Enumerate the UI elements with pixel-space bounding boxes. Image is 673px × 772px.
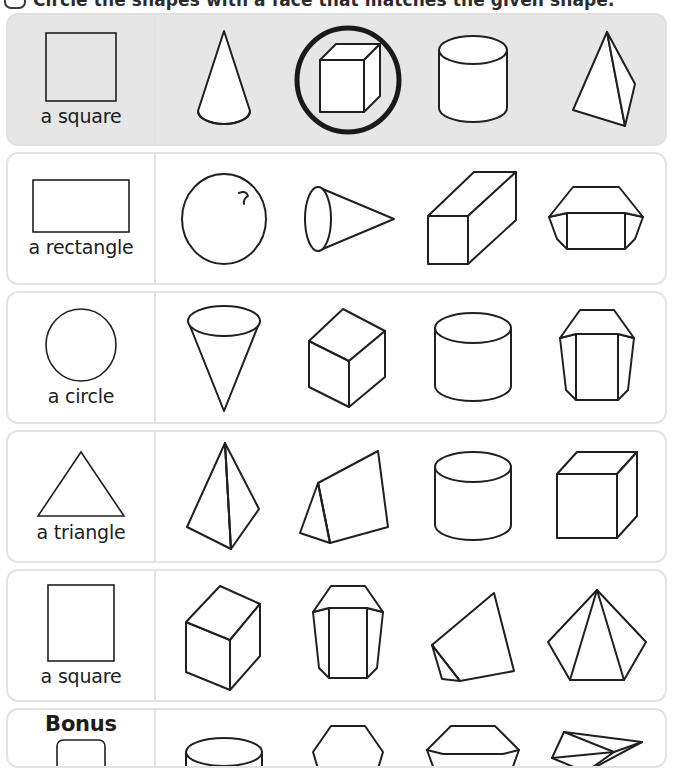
row-shapes (156, 571, 665, 700)
triangle-icon (35, 449, 127, 519)
circle-icon (43, 307, 119, 383)
table-row: a rectangle (6, 152, 667, 285)
shape-option[interactable] (418, 577, 528, 695)
shape-option[interactable] (169, 160, 279, 278)
shape-option[interactable] (293, 577, 403, 695)
shape-option[interactable] (293, 160, 403, 278)
shape-option[interactable] (418, 160, 528, 278)
bonus-label: Bonus (45, 714, 117, 735)
table-row: a triangle (6, 430, 667, 563)
row-shapes (156, 154, 665, 283)
square-icon (46, 583, 116, 663)
shape-option[interactable] (293, 299, 403, 417)
shape-option[interactable] (542, 438, 652, 556)
row-label: a triangle (37, 523, 126, 542)
shape-option[interactable] (542, 299, 652, 417)
shape-option[interactable] (542, 21, 652, 139)
table-row: a circle (6, 291, 667, 424)
square-icon (44, 31, 118, 103)
shape-option[interactable] (418, 718, 528, 768)
row-label-cell: a square (8, 15, 156, 144)
row-label: a rectangle (28, 238, 133, 257)
table-row-bonus: Bonus (6, 708, 667, 768)
row-shapes (156, 15, 665, 144)
shape-option[interactable] (418, 438, 528, 556)
row-label-cell: a rectangle (8, 154, 156, 283)
row-shapes (156, 293, 665, 422)
shape-option[interactable] (418, 299, 528, 417)
row-label-cell: Bonus (8, 710, 156, 766)
shape-option[interactable] (542, 577, 652, 695)
shape-option[interactable] (169, 438, 279, 556)
table-row: a square (6, 569, 667, 702)
rounded-square-icon (54, 737, 108, 768)
shape-option[interactable] (293, 438, 403, 556)
row-shapes (156, 710, 665, 766)
shape-option[interactable] (418, 21, 528, 139)
shape-option[interactable] (542, 718, 652, 768)
row-label: a circle (48, 387, 115, 406)
shape-option[interactable] (169, 299, 279, 417)
row-label-cell: a square (8, 571, 156, 700)
shape-option[interactable] (542, 160, 652, 278)
row-shapes (156, 432, 665, 561)
row-label-cell: a circle (8, 293, 156, 422)
instruction-text: Circle the shapes with a face that match… (33, 0, 614, 10)
shape-option[interactable] (169, 21, 279, 139)
rectangle-icon (31, 178, 131, 234)
row-label-cell: a triangle (8, 432, 156, 561)
table-row: a square (6, 13, 667, 146)
row-label: a square (41, 107, 122, 126)
shape-option[interactable] (293, 718, 403, 768)
shape-option[interactable] (169, 718, 279, 768)
worksheet-rows: a square (0, 13, 673, 772)
shape-option[interactable] (169, 577, 279, 695)
instruction-bar: Circle the shapes with a face that match… (0, 0, 673, 13)
oval-bullet-icon (4, 0, 26, 9)
shape-option-answer[interactable] (293, 21, 403, 139)
row-label: a square (41, 667, 122, 686)
